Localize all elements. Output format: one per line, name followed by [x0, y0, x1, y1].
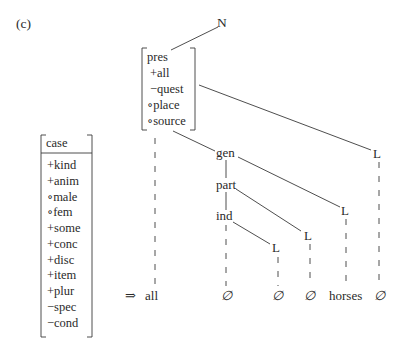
edge-ind-L [233, 222, 270, 244]
node-part: part [216, 177, 236, 193]
tree-diagram: (c) N pres +all −quest ∘place ∘source ca… [0, 0, 399, 346]
node-L-part: L [304, 228, 312, 244]
feature-pres: pres [147, 50, 168, 66]
feature-source: ∘source [147, 114, 186, 130]
output-null-4: ∅ [374, 288, 385, 304]
node-L-gen: L [341, 203, 349, 219]
edge-N-pres [171, 27, 218, 50]
left-matrix-right-bracket [87, 135, 92, 337]
feature-item: +item [47, 268, 76, 284]
edge-matrix-gen [173, 131, 215, 151]
edge-matrix-L-right [199, 85, 371, 150]
output-horses: horses [329, 288, 362, 304]
node-ind: ind [216, 208, 233, 224]
derivation-arrow: ⇒ [125, 288, 136, 304]
feature-plur: +plur [47, 284, 74, 300]
node-gen: gen [216, 145, 235, 161]
feature-kind: +kind [47, 158, 76, 174]
feature-anim: +anim [47, 174, 79, 190]
left-matrix-left-bracket [41, 135, 46, 337]
root-node-N: N [217, 15, 227, 31]
matrix-header-case: case [46, 136, 68, 152]
output-null-1: ∅ [221, 288, 232, 304]
feature-spec: −spec [47, 300, 76, 316]
feature-all: +all [150, 66, 170, 82]
panel-label: (c) [16, 16, 31, 32]
edge-gen-L [238, 157, 340, 207]
feature-quest: −quest [150, 82, 183, 98]
edge-part-L [236, 189, 301, 231]
feature-male: ∘male [47, 190, 77, 206]
output-null-3: ∅ [304, 288, 315, 304]
output-null-2: ∅ [272, 288, 283, 304]
feature-disc: +disc [47, 253, 74, 269]
node-L-ind: L [272, 240, 280, 256]
feature-place: ∘place [147, 98, 180, 114]
top-matrix-right-bracket [190, 48, 195, 130]
feature-fem: ∘fem [47, 205, 73, 221]
feature-cond: −cond [47, 316, 78, 332]
node-L-right: L [373, 146, 381, 162]
output-all: all [145, 288, 158, 304]
feature-conc: +conc [47, 237, 78, 253]
feature-some: +some [47, 221, 80, 237]
